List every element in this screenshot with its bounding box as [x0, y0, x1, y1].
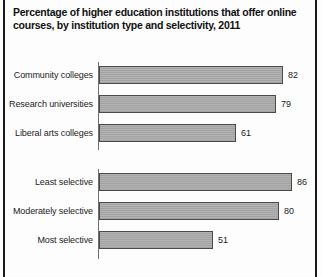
bar-value-label: 80: [284, 201, 294, 221]
bar: [99, 66, 283, 84]
bar-value-label: 51: [218, 230, 228, 250]
bar: [99, 95, 276, 113]
bar: [99, 202, 279, 220]
bar-row: Research universities 79: [0, 94, 322, 114]
category-label: Research universities: [0, 94, 93, 114]
plot-area: Community colleges 82 Research universit…: [0, 0, 322, 277]
bar-value-label: 79: [281, 94, 291, 114]
bar: [99, 173, 292, 191]
bar: [99, 124, 236, 142]
category-label: Liberal arts colleges: [0, 123, 93, 143]
bar-row: Most selective 51: [0, 230, 322, 250]
category-label: Community colleges: [0, 65, 93, 85]
category-label: Moderately selective: [0, 201, 93, 221]
bar-row: Least selective 86: [0, 172, 322, 192]
bar-group-institution-type: Community colleges 82 Research universit…: [0, 62, 322, 150]
bar-row: Community colleges 82: [0, 65, 322, 85]
chart-figure: Percentage of higher education instituti…: [0, 0, 322, 277]
bar-row: Moderately selective 80: [0, 201, 322, 221]
bar-value-label: 82: [288, 65, 298, 85]
category-label: Most selective: [0, 230, 93, 250]
bar: [99, 231, 213, 249]
bar-row: Liberal arts colleges 61: [0, 123, 322, 143]
bar-value-label: 86: [297, 172, 307, 192]
bar-group-selectivity: Least selective 86 Moderately selective …: [0, 169, 322, 259]
bar-value-label: 61: [241, 123, 251, 143]
category-label: Least selective: [0, 172, 93, 192]
